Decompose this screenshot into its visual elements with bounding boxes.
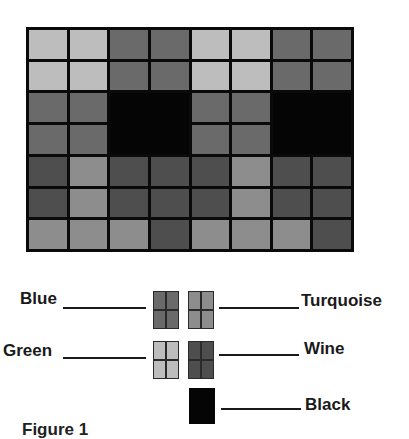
legend-leader-wine xyxy=(219,354,299,356)
legend-label-blue: Blue xyxy=(20,290,57,308)
grid-cell-blue xyxy=(29,93,67,122)
grid-cell-green xyxy=(29,62,67,91)
grid-cell-blue xyxy=(110,62,148,91)
figure-caption: Figure 1 xyxy=(22,420,88,439)
grid-cell-blue xyxy=(70,93,108,122)
grid-cell-turquoise xyxy=(70,157,108,186)
tile-grid xyxy=(26,27,354,252)
grid-cell-blue xyxy=(273,62,311,91)
legend-leader-black xyxy=(221,408,301,410)
grid-cell-turquoise xyxy=(70,220,108,249)
grid-cell-turquoise xyxy=(29,220,67,249)
grid-cell-wine xyxy=(151,189,189,218)
legend-label-wine: Wine xyxy=(304,340,344,358)
grid-cell-blue xyxy=(151,30,189,59)
legend-swatch-wine xyxy=(188,341,214,379)
legend-swatch-turquoise xyxy=(188,291,214,329)
grid-cell-green xyxy=(192,30,230,59)
grid-cell-turquoise xyxy=(232,189,270,218)
grid-cell-blue xyxy=(313,30,351,59)
legend-leader-turquoise xyxy=(219,307,299,309)
grid-cell-wine xyxy=(313,157,351,186)
grid-cell-wine xyxy=(110,189,148,218)
legend-leader-green xyxy=(63,357,146,359)
grid-cell-green xyxy=(192,62,230,91)
grid-cell-blue xyxy=(29,125,67,154)
grid-cell-blue xyxy=(151,62,189,91)
grid-cell-blue xyxy=(70,125,108,154)
grid-cell-turquoise xyxy=(232,157,270,186)
grid-cell-wine xyxy=(151,220,189,249)
grid-cell-turquoise xyxy=(110,220,148,249)
grid-cell-turquoise xyxy=(273,220,311,249)
legend-leader-blue xyxy=(63,307,146,309)
grid-cell-green xyxy=(232,62,270,91)
grid-cell-wine xyxy=(110,157,148,186)
grid-cell-blue xyxy=(313,62,351,91)
legend-label-green: Green xyxy=(3,342,52,360)
grid-cell-blue xyxy=(232,125,270,154)
grid-cell-wine xyxy=(273,189,311,218)
grid-cell-turquoise xyxy=(70,189,108,218)
grid-cell-black xyxy=(273,93,351,153)
grid-cell-blue xyxy=(192,93,230,122)
grid-cell-turquoise xyxy=(232,220,270,249)
grid-cell-wine xyxy=(29,157,67,186)
grid-cell-blue xyxy=(110,30,148,59)
grid-cell-green xyxy=(232,30,270,59)
grid-cell-black xyxy=(110,93,188,153)
legend-swatch-blue xyxy=(153,291,179,329)
legend-label-black: Black xyxy=(305,396,350,414)
grid-cell-wine xyxy=(192,189,230,218)
grid-cell-wine xyxy=(313,220,351,249)
grid-cell-green xyxy=(29,30,67,59)
grid-cell-wine xyxy=(192,157,230,186)
legend-label-turquoise: Turquoise xyxy=(301,292,382,310)
grid-cell-wine xyxy=(29,189,67,218)
grid-cell-wine xyxy=(273,157,311,186)
grid-cell-wine xyxy=(151,157,189,186)
grid-cell-blue xyxy=(232,93,270,122)
legend-swatch-green xyxy=(153,341,179,379)
grid-cell-blue xyxy=(273,30,311,59)
grid-cell-turquoise xyxy=(192,220,230,249)
grid-cell-green xyxy=(70,62,108,91)
grid-cell-green xyxy=(70,30,108,59)
grid-cell-blue xyxy=(192,125,230,154)
legend-swatch-black xyxy=(189,388,215,424)
grid-cell-wine xyxy=(313,189,351,218)
